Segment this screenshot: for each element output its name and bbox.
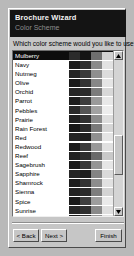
- color-swatch: [102, 97, 113, 105]
- list-item[interactable]: Sagebrush: [13, 160, 114, 169]
- color-swatch: [102, 88, 113, 96]
- color-swatch: [102, 133, 113, 141]
- color-swatch: [69, 124, 80, 132]
- vertical-scrollbar[interactable]: [113, 51, 123, 216]
- list-item[interactable]: Reef: [13, 151, 114, 160]
- list-item[interactable]: Rain Forest: [13, 124, 114, 133]
- list-item-label: Nutmeg: [15, 69, 37, 78]
- color-swatch: [91, 133, 102, 141]
- color-swatch: [91, 70, 102, 78]
- list-item-label: Sapphire: [15, 169, 40, 178]
- list-item-label: Olive: [15, 78, 29, 87]
- list-item-label: Spice: [15, 197, 30, 206]
- color-swatch: [80, 152, 91, 160]
- color-swatch: [69, 79, 80, 87]
- color-swatch: [102, 143, 113, 151]
- color-swatch: [91, 88, 102, 96]
- list-item-label: Sienna: [15, 187, 34, 196]
- color-swatch-group: [69, 170, 113, 178]
- color-swatch: [69, 133, 80, 141]
- color-swatch-group: [69, 61, 113, 69]
- list-item[interactable]: Olive: [13, 78, 114, 87]
- color-swatch: [69, 70, 80, 78]
- color-swatch: [91, 188, 102, 196]
- list-item-label: Prairie: [15, 115, 33, 124]
- color-swatch: [91, 52, 102, 60]
- color-swatch: [69, 97, 80, 105]
- color-scheme-listbox[interactable]: MulberryNavyNutmegOliveOrchidParrotPebbl…: [12, 50, 124, 217]
- list-item[interactable]: Mulberry: [13, 51, 114, 60]
- color-swatch: [91, 152, 102, 160]
- color-swatch: [80, 188, 91, 196]
- list-item-label: Reef: [15, 151, 28, 160]
- back-button[interactable]: < Back: [13, 229, 39, 242]
- color-swatch: [69, 188, 80, 196]
- color-swatch: [91, 206, 102, 214]
- color-swatch-group: [69, 106, 113, 114]
- list-item[interactable]: Prairie: [13, 115, 114, 124]
- color-swatch-group: [69, 124, 113, 132]
- list-item[interactable]: Redwood: [13, 142, 114, 151]
- next-button[interactable]: Next >: [41, 229, 67, 242]
- color-swatch: [80, 106, 91, 114]
- color-swatch: [91, 79, 102, 87]
- scrollbar-thumb[interactable]: [114, 135, 123, 175]
- color-swatch: [80, 161, 91, 169]
- color-swatch: [80, 170, 91, 178]
- list-item[interactable]: Navy: [13, 60, 114, 69]
- list-item[interactable]: Sunrise: [13, 206, 114, 215]
- color-swatch: [102, 152, 113, 160]
- color-swatch: [80, 70, 91, 78]
- list-item-label: Orchid: [15, 87, 33, 96]
- list-item[interactable]: Spice: [13, 197, 114, 206]
- color-swatch-group: [69, 197, 113, 205]
- color-swatch-group: [69, 79, 113, 87]
- color-swatch: [102, 197, 113, 205]
- color-swatch: [102, 161, 113, 169]
- list-item[interactable]: Orchid: [13, 87, 114, 96]
- list-item[interactable]: Sienna: [13, 187, 114, 196]
- scroll-down-arrow-icon[interactable]: [114, 207, 123, 216]
- color-swatch: [102, 170, 113, 178]
- wizard-banner: Brochure Wizard Color Scheme: [10, 10, 126, 37]
- color-swatch: [69, 88, 80, 96]
- color-swatch: [91, 197, 102, 205]
- color-swatch: [91, 179, 102, 187]
- finish-button[interactable]: Finish: [95, 229, 122, 242]
- color-swatch-group: [69, 70, 113, 78]
- color-swatch: [69, 106, 80, 114]
- color-swatch: [69, 152, 80, 160]
- wizard-title: Brochure Wizard: [15, 13, 76, 22]
- list-item[interactable]: Sunset: [13, 215, 114, 217]
- color-swatch: [69, 197, 80, 205]
- color-swatch: [69, 206, 80, 214]
- color-swatch: [69, 115, 80, 123]
- color-swatch: [91, 143, 102, 151]
- color-swatch: [80, 52, 91, 60]
- list-item[interactable]: Sapphire: [13, 169, 114, 178]
- list-item[interactable]: Shamrock: [13, 178, 114, 187]
- list-item[interactable]: Red: [13, 133, 114, 142]
- color-swatch: [80, 133, 91, 141]
- color-swatch: [102, 61, 113, 69]
- color-swatch: [102, 206, 113, 214]
- color-swatch: [69, 179, 80, 187]
- list-item[interactable]: Nutmeg: [13, 69, 114, 78]
- list-item-label: Redwood: [15, 142, 41, 151]
- color-swatch: [69, 143, 80, 151]
- color-swatch-group: [69, 88, 113, 96]
- color-swatch: [91, 170, 102, 178]
- color-swatch-group: [69, 206, 113, 214]
- color-swatch: [80, 179, 91, 187]
- list-item-label: Navy: [15, 60, 29, 69]
- scroll-up-arrow-icon[interactable]: [114, 51, 123, 60]
- list-item[interactable]: Parrot: [13, 96, 114, 105]
- color-swatch: [102, 215, 113, 217]
- color-swatch-group: [69, 133, 113, 141]
- list-item-label: Sagebrush: [15, 160, 45, 169]
- list-item-label: Parrot: [15, 96, 32, 105]
- color-swatch: [91, 124, 102, 132]
- list-item[interactable]: Pebbles: [13, 106, 114, 115]
- color-swatch: [80, 215, 91, 217]
- color-swatch: [91, 115, 102, 123]
